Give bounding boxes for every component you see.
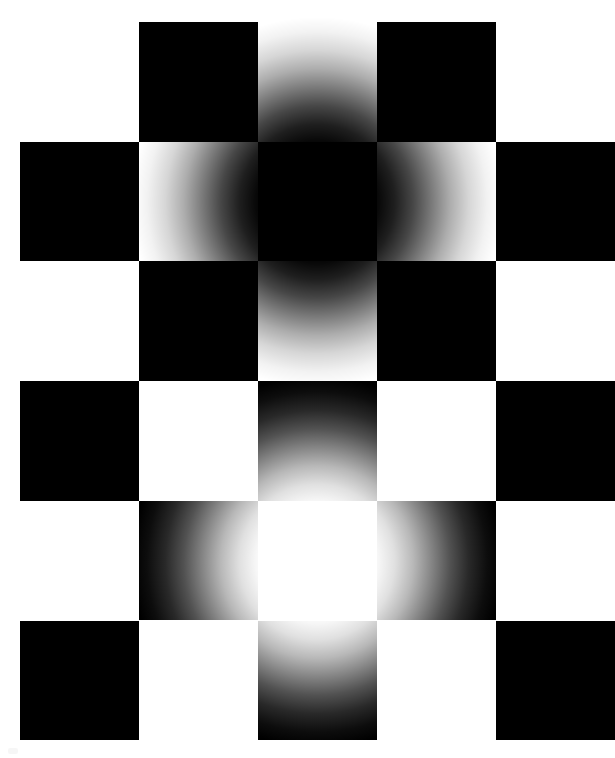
checker-cell-r0-c4 <box>496 22 615 142</box>
checker-cell-r3-c2 <box>258 381 377 501</box>
checker-cell-r0-c0 <box>20 22 139 142</box>
checker-cell-r4-c4 <box>496 501 615 621</box>
checker-cell-r0-c3 <box>377 22 496 142</box>
checker-cell-r2-c0 <box>20 261 139 381</box>
illusion-canvas <box>0 0 615 758</box>
checker-cell-r4-c3 <box>377 501 496 621</box>
checker-cell-r2-c2 <box>258 261 377 381</box>
checker-cell-r4-c0 <box>20 501 139 621</box>
checker-cell-r2-c4 <box>496 261 615 381</box>
checker-cell-r1-c3 <box>377 142 496 262</box>
checker-cell-r2-c3 <box>377 261 496 381</box>
checker-cell-r3-c0 <box>20 381 139 501</box>
checker-cell-r3-c3 <box>377 381 496 501</box>
checker-cell-r3-c4 <box>496 381 615 501</box>
checker-cell-r5-c1 <box>139 621 258 741</box>
checker-cell-r5-c2 <box>258 621 377 741</box>
checker-cell-r5-c0 <box>20 621 139 741</box>
checker-cell-r4-c2 <box>258 501 377 621</box>
checker-cell-r0-c2 <box>258 22 377 142</box>
checker-cell-r3-c1 <box>139 381 258 501</box>
checker-cell-r2-c1 <box>139 261 258 381</box>
checker-cell-r5-c3 <box>377 621 496 741</box>
checker-cell-r5-c4 <box>496 621 615 741</box>
checker-cell-r1-c1 <box>139 142 258 262</box>
checker-cell-r1-c2 <box>258 142 377 262</box>
checker-cell-r1-c4 <box>496 142 615 262</box>
checker-cell-r4-c1 <box>139 501 258 621</box>
checker-cell-r0-c1 <box>139 22 258 142</box>
checkerboard-grid <box>0 0 615 758</box>
checker-cell-r1-c0 <box>20 142 139 262</box>
